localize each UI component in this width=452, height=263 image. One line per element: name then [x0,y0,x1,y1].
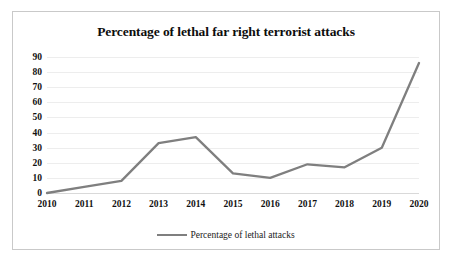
y-tick-label-70: 70 [33,82,43,92]
x-tick-label-2016: 2016 [261,199,280,209]
y-tick-label-20: 20 [33,158,43,168]
plot-area: 0102030405060708090 20102011201220132014… [47,57,419,193]
y-tick-label-80: 80 [33,67,43,77]
x-tick-label-2012: 2012 [112,199,131,209]
chart-frame: Percentage of lethal far right terrorist… [12,11,440,250]
legend-line-swatch [157,234,187,236]
y-tick-label-30: 30 [33,143,43,153]
gridline-0 [47,193,419,194]
x-tick-label-2010: 2010 [38,199,57,209]
y-tick-label-40: 40 [33,128,43,138]
chart-legend: Percentage of lethal attacks [13,230,439,240]
y-tick-label-90: 90 [33,52,43,62]
x-tick-label-2020: 2020 [410,199,429,209]
x-tick-label-2017: 2017 [298,199,317,209]
x-tick-label-2011: 2011 [75,199,93,209]
series-path-percentage-of-lethal-attacks [47,63,419,193]
series-line-percentage-of-lethal-attacks [47,57,419,193]
y-tick-label-60: 60 [33,97,43,107]
y-tick-label-50: 50 [33,112,43,122]
chart-title: Percentage of lethal far right terrorist… [13,24,439,40]
y-tick-label-0: 0 [37,188,42,198]
y-tick-label-10: 10 [33,173,43,183]
legend-label-percentage-of-lethal-attacks: Percentage of lethal attacks [190,230,294,240]
x-tick-label-2013: 2013 [149,199,168,209]
x-tick-label-2015: 2015 [224,199,243,209]
x-tick-label-2014: 2014 [186,199,205,209]
x-tick-label-2019: 2019 [372,199,391,209]
x-tick-label-2018: 2018 [335,199,354,209]
